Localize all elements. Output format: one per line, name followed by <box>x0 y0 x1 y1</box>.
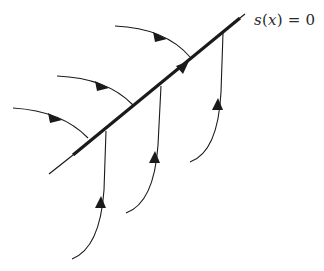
sliding-surface-diagram <box>0 0 324 271</box>
arrow-up-icon <box>149 151 160 163</box>
trajectory-above-2 <box>57 76 133 105</box>
trajectory-above-1 <box>115 26 190 57</box>
diagram-canvas: s(x) = 0 <box>0 0 324 271</box>
arrow-up-icon <box>212 98 223 110</box>
surface-var: x <box>268 11 277 29</box>
surface-equals-zero: = 0 <box>283 11 315 29</box>
trajectory-above-arrows <box>48 32 167 123</box>
surface-func: s <box>254 11 262 29</box>
surface-thin-lower <box>49 155 73 174</box>
arrow-right-icon <box>95 81 109 91</box>
trajectory-above-3 <box>13 108 88 138</box>
surface-arrow-icon <box>176 61 189 74</box>
arrow-up-icon <box>95 196 106 208</box>
trajectory-below-3 <box>190 33 223 162</box>
trajectory-below-2 <box>126 86 161 213</box>
surface-thin-upper <box>240 14 245 18</box>
trajectories-below <box>72 33 223 259</box>
sliding-surface <box>49 14 245 174</box>
surface-equation-label: s(x) = 0 <box>254 11 315 29</box>
